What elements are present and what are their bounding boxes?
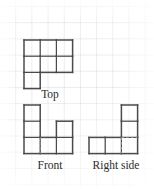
right-side-view-label: Right side (78, 159, 154, 172)
top-view-label: Top (10, 88, 90, 101)
orthographic-views-figure: Top Front Right side (0, 0, 154, 189)
